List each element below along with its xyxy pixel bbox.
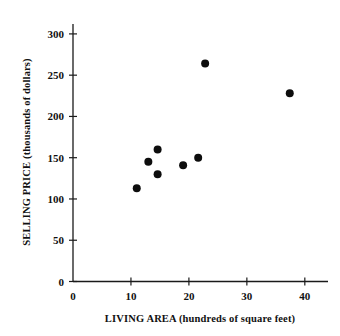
scatter-plot-figure: 050100150200250300 010203040 SELLING PRI… xyxy=(0,0,340,336)
y-tick-label-200: 200 xyxy=(48,110,65,122)
data-point xyxy=(179,161,187,169)
y-tick-label-300: 300 xyxy=(48,28,65,40)
x-tick-label-0: 0 xyxy=(70,290,76,302)
y-tick-label-100: 100 xyxy=(48,193,65,205)
plot-canvas: 050100150200250300 010203040 SELLING PRI… xyxy=(0,0,340,336)
data-point-group xyxy=(133,60,294,193)
y-axis-tick-labels: 050100150200250300 xyxy=(48,28,65,288)
x-axis-tick-labels: 010203040 xyxy=(70,290,311,302)
data-point xyxy=(154,145,162,153)
y-tick-label-150: 150 xyxy=(48,152,65,164)
data-point xyxy=(201,60,209,68)
x-tick-label-40: 40 xyxy=(299,290,311,302)
data-point xyxy=(194,154,202,162)
data-point xyxy=(144,158,152,166)
data-point xyxy=(154,170,162,178)
y-axis-title: SELLING PRICE (thousands of dollars) xyxy=(21,58,33,246)
y-tick-label-250: 250 xyxy=(48,69,65,81)
x-tick-label-10: 10 xyxy=(125,290,137,302)
data-point xyxy=(133,184,141,192)
x-axis-title: LIVING AREA (hundreds of square feet) xyxy=(105,313,296,325)
y-tick-label-50: 50 xyxy=(53,234,65,246)
x-tick-label-20: 20 xyxy=(183,290,195,302)
x-tick-label-30: 30 xyxy=(241,290,253,302)
y-tick-label-0: 0 xyxy=(59,276,65,288)
data-point xyxy=(286,89,294,97)
